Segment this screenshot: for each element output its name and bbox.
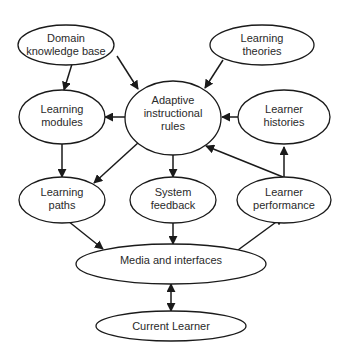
node-label: Learner: [265, 186, 303, 198]
node-label: Learning: [41, 186, 84, 198]
edge-performance-to-rules: [206, 146, 283, 177]
node-label: instructional: [144, 107, 203, 119]
node-learning-theories: Learning theories: [210, 25, 314, 65]
node-label: Current Learner: [132, 320, 210, 332]
edge-rules-to-paths: [94, 142, 139, 183]
node-learner-histories: Learner histories: [238, 90, 330, 144]
edge-domain-to-modules: [64, 64, 72, 90]
node-learning-modules: Learning modules: [19, 90, 105, 144]
node-label: Learner: [265, 103, 303, 115]
node-current-learner: Current Learner: [96, 311, 246, 341]
node-label: Adaptive: [152, 94, 195, 106]
node-system-feedback: System feedback: [130, 177, 216, 223]
node-media-and-interfaces: Media and interfaces: [76, 244, 266, 284]
node-label: System: [155, 186, 192, 198]
edge-domain-to-rules: [117, 56, 138, 89]
node-label: performance: [253, 199, 315, 211]
node-label: Learning: [241, 32, 284, 44]
node-label: knowledge base: [26, 45, 106, 57]
node-label: theories: [242, 45, 282, 57]
node-label: Learning: [41, 103, 84, 115]
node-domain-knowledge-base: Domain knowledge base: [18, 25, 114, 65]
node-label: feedback: [151, 199, 196, 211]
node-label: Domain: [47, 32, 85, 44]
node-learner-performance: Learner performance: [237, 177, 331, 223]
edge-theories-to-rules: [205, 60, 223, 88]
node-label: paths: [49, 199, 76, 211]
node-label: histories: [264, 116, 305, 128]
diagram-canvas: Domain knowledge base Learning theories …: [0, 0, 351, 358]
node-label: modules: [41, 116, 83, 128]
node-label: Media and interfaces: [120, 254, 223, 266]
node-learning-paths: Learning paths: [19, 177, 105, 223]
node-label: rules: [161, 120, 185, 132]
node-adaptive-instructional-rules: Adaptive instructional rules: [125, 81, 221, 155]
